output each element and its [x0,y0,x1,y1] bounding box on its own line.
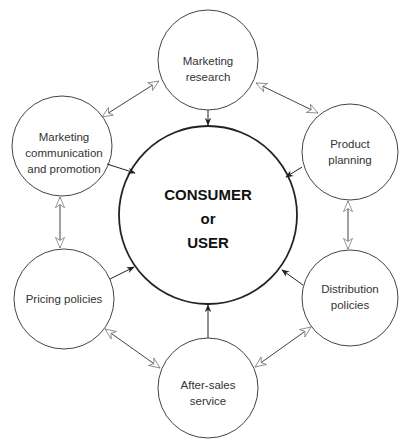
node-label-line: Product [328,136,371,152]
node-label-line: communication [25,145,102,161]
arrow-communication-to-center [107,164,135,173]
node-label-after-sales-service: After-sales service [181,377,236,409]
node-label-line: Marketing [25,129,102,145]
node-label-pricing-policies: Pricing policies [26,291,103,307]
center-label-line1: CONSUMER [164,183,252,207]
node-label-marketing-research: Marketing research [183,53,234,85]
link-aftersales-pricing [105,329,160,368]
center-label: CONSUMER or USER [164,183,252,255]
node-label-line: Distribution [321,281,379,297]
node-label-marketing-communication: Marketing communication and promotion [25,129,102,177]
node-label-line: research [183,69,234,85]
arrow-product-to-center [286,167,302,177]
node-label-line: policies [321,297,379,313]
node-label-line: planning [328,152,371,168]
center-label-line3: USER [164,231,252,255]
arrow-pricing-to-center [110,267,134,279]
node-label-line: service [181,393,236,409]
center-label-line2: or [164,207,252,231]
link-distribution-aftersales [255,327,311,367]
node-label-product-planning: Product planning [328,136,371,168]
node-label-line: Marketing [183,53,234,69]
node-label-distribution-policies: Distribution policies [321,281,379,313]
link-research-communication [102,81,159,117]
arrow-distribution-to-center [282,270,303,285]
node-label-line: After-sales [181,377,236,393]
link-research-product [256,83,318,113]
node-label-line: Pricing policies [26,291,103,307]
node-label-line: and promotion [25,161,102,177]
